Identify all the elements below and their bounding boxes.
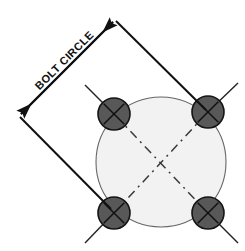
technical-drawing-canvas: BOLT CIRCLE: [0, 0, 245, 251]
bolt-circle-drawing: BOLT CIRCLE: [0, 0, 245, 251]
bolt-circle-diameter-dimension: [21, 22, 113, 114]
bolt-top-left: [98, 98, 130, 130]
dimension-line-shaft-reverse: [21, 22, 113, 114]
dimension-label: BOLT CIRCLE: [33, 29, 96, 92]
bolt-bottom-right: [192, 197, 224, 229]
